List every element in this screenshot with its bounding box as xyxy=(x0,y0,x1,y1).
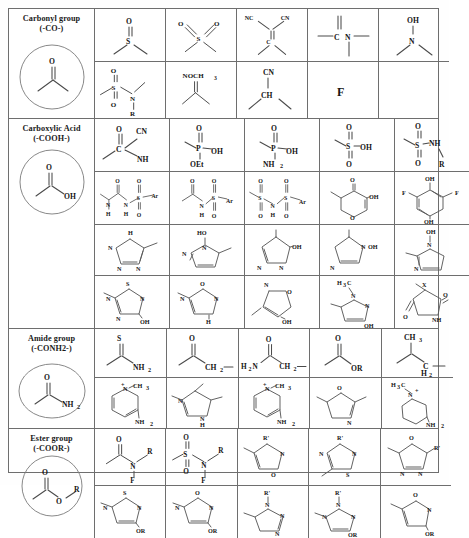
cell-tetrazole: H N N N xyxy=(95,225,170,275)
svg-text:R': R' xyxy=(337,434,343,441)
svg-text:N: N xyxy=(257,264,262,271)
group-formula-text: (-CO-) xyxy=(23,24,80,34)
svg-text:H: H xyxy=(206,318,211,325)
svg-text:N: N xyxy=(352,450,357,457)
svg-text:P: P xyxy=(196,144,201,153)
svg-text:OH: OH xyxy=(424,218,434,224)
label-cell-carbonyl: Carbonyl group (-CO-) O xyxy=(9,9,95,118)
table-row: O S O O S xyxy=(95,9,449,62)
group-title-text: Amide group xyxy=(28,334,75,343)
svg-text:OH: OH xyxy=(64,192,76,201)
svg-text:N: N xyxy=(199,203,204,209)
table-row: N + CH 3 NH 2 xyxy=(95,378,453,428)
cell-n-fluoro-amide: O N R F xyxy=(95,429,166,485)
cell-n-substituted-tetrazole: R' N N N xyxy=(238,486,309,538)
svg-text:H: H xyxy=(124,211,129,217)
svg-text:R: R xyxy=(147,448,153,456)
svg-text:N: N xyxy=(252,363,258,371)
cell-cyanoamide: O C CN NH xyxy=(95,119,170,171)
svg-text:O: O xyxy=(190,178,195,184)
cell-cyano-methine: CN CH xyxy=(237,62,308,118)
svg-text:2: 2 xyxy=(280,162,283,169)
svg-text:N: N xyxy=(275,530,280,537)
cell-alkoxy-isoxazole: O N OR xyxy=(381,486,451,538)
svg-text:S: S xyxy=(346,471,350,478)
svg-text:S: S xyxy=(117,334,121,343)
svg-text:N: N xyxy=(280,512,285,519)
svg-text:CH: CH xyxy=(261,91,272,100)
cell-sulfonamide: O S O N R xyxy=(95,62,166,118)
svg-text:OH: OH xyxy=(426,228,436,235)
svg-text:O: O xyxy=(137,178,142,184)
cell-n-fluoro-sulfonamide: O S O N R xyxy=(166,429,237,485)
svg-text:O: O xyxy=(271,124,277,133)
group-title-carbonyl: Carbonyl group (-CO-) xyxy=(23,14,80,34)
svg-text:C: C xyxy=(116,145,121,154)
svg-text:CN: CN xyxy=(136,127,147,136)
svg-text:2: 2 xyxy=(441,422,444,428)
svg-text:O: O xyxy=(346,160,352,169)
cell-sulfonylsulfonamide: O S O N H O xyxy=(245,172,320,224)
table-row: S NH 2 O xyxy=(95,329,453,378)
cell-n-methyl-aminopiperidinium: H 3 C N + NH 2 xyxy=(382,378,453,428)
svg-text:OR: OR xyxy=(351,364,363,373)
svg-text:N: N xyxy=(136,265,141,272)
cell-acylsulfonamide: O O N H S xyxy=(170,172,245,224)
svg-text:H: H xyxy=(199,212,204,218)
svg-text:N: N xyxy=(280,450,285,457)
svg-text:3: 3 xyxy=(146,384,149,391)
svg-text:N: N xyxy=(319,450,324,457)
svg-text:OH: OH xyxy=(282,318,292,325)
svg-text:N: N xyxy=(265,501,270,508)
svg-text:O: O xyxy=(189,334,195,343)
svg-text:O: O xyxy=(111,67,117,75)
cell-oxadiazolone: O N N H xyxy=(170,276,245,328)
cell-reverse-amide: O H 2 N CH 2 xyxy=(239,329,311,377)
svg-text:N: N xyxy=(347,419,352,426)
svg-text:S: S xyxy=(258,195,262,201)
svg-text:O: O xyxy=(258,178,263,184)
svg-text:S: S xyxy=(123,489,127,496)
svg-text:3: 3 xyxy=(419,336,422,343)
svg-text:NH: NH xyxy=(135,418,144,425)
svg-text:O: O xyxy=(284,178,289,184)
svg-text:CH: CH xyxy=(404,333,415,342)
svg-text:H: H xyxy=(241,363,247,371)
svg-text:3: 3 xyxy=(343,281,346,288)
rows-carbonyl: O S O O S xyxy=(95,9,449,118)
svg-text:N: N xyxy=(351,292,356,299)
group-title-ester: Ester group (-COOR-) xyxy=(30,434,72,454)
svg-text:N: N xyxy=(178,397,183,404)
svg-text:F: F xyxy=(202,477,207,485)
cell-nitrile-ylide: C N xyxy=(308,9,379,61)
svg-text:N: N xyxy=(400,470,405,477)
svg-text:O: O xyxy=(337,384,342,391)
cell-empty xyxy=(379,62,449,118)
svg-text:H: H xyxy=(200,421,205,427)
cell-sulfonamide-acid: O S O NH R xyxy=(395,119,469,171)
svg-text:N: N xyxy=(336,501,341,508)
cell-phosphonate-monoethyl: O P OH OEt xyxy=(170,119,245,171)
svg-text:O: O xyxy=(115,178,120,184)
svg-text:3: 3 xyxy=(288,384,291,391)
svg-text:2: 2 xyxy=(220,366,223,373)
cell-methyl-hydroxypyrazole: H 3 C N N OH xyxy=(320,276,395,328)
svg-text:O: O xyxy=(184,434,190,442)
svg-text:O: O xyxy=(111,101,117,109)
svg-text:OR: OR xyxy=(425,530,435,537)
cell-acylsulfonylurea: O O H N N xyxy=(95,172,170,224)
svg-text:O: O xyxy=(287,288,292,295)
svg-text:2: 2 xyxy=(429,371,432,377)
svg-text:O: O xyxy=(271,471,276,478)
section-carbonyl: Carbonyl group (-CO-) O xyxy=(9,9,438,119)
svg-text:R': R' xyxy=(434,444,440,451)
cell-hydroxypyranone: O OH O xyxy=(320,172,395,224)
svg-text:R': R' xyxy=(335,489,341,496)
svg-text:Ar: Ar xyxy=(151,193,158,199)
svg-text:+: + xyxy=(415,387,419,394)
svg-text:NH: NH xyxy=(277,418,286,425)
svg-text:N: N xyxy=(427,506,432,513)
group-formula-text: (-CONH2-) xyxy=(28,344,75,354)
svg-text:3: 3 xyxy=(397,383,400,390)
